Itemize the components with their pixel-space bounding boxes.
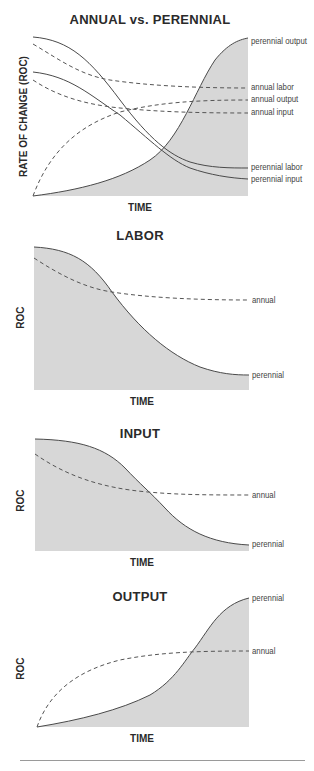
label-perennial-input: perennial input: [251, 173, 302, 184]
label-input-annual: annual: [252, 489, 275, 500]
chart-title-output: OUTPUT: [100, 589, 180, 604]
label-labor-annual: annual: [252, 294, 275, 305]
label-labor-perennial: perennial: [252, 369, 284, 380]
x-axis-label-time-input: TIME: [112, 557, 172, 568]
label-annual-output: annual output: [251, 93, 298, 104]
label-perennial-output: perennial output: [251, 35, 307, 46]
label-annual-input: annual input: [251, 106, 293, 117]
plot-output: [37, 598, 249, 727]
x-axis-label-time-labor: TIME: [112, 396, 172, 407]
chart-title-input: INPUT: [100, 426, 180, 441]
plot-labor: [34, 247, 249, 390]
perennial-output-area: [33, 38, 248, 196]
x-axis-label-time-output: TIME: [112, 733, 172, 744]
label-input-perennial: perennial: [252, 538, 284, 549]
plot-annual-vs-perennial: [33, 37, 248, 196]
label-output-perennial: perennial: [252, 592, 284, 603]
y-axis-label-roc-labor: ROC: [15, 303, 26, 333]
label-annual-labor: annual labor: [251, 81, 294, 92]
labor-perennial-area: [34, 247, 249, 390]
bottom-divider: [20, 760, 305, 761]
plot-input: [35, 439, 249, 551]
label-output-annual: annual: [252, 645, 275, 656]
label-perennial-labor: perennial labor: [251, 161, 303, 172]
y-axis-label-roc-input: ROC: [15, 486, 26, 516]
y-axis-label-roc-output: ROC: [15, 654, 26, 684]
chart-title-labor: LABOR: [100, 228, 180, 243]
